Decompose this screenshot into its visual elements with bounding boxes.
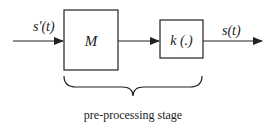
block-m-label: M — [84, 33, 99, 49]
block-k: k (.) — [160, 20, 203, 58]
group-label: pre-processing stage — [84, 108, 182, 122]
grouping-brace — [64, 76, 202, 96]
input-signal-label: s'(t) — [33, 19, 55, 35]
output-signal-label: s(t) — [222, 23, 241, 39]
block-k-label: k (.) — [170, 33, 193, 49]
block-m: M — [64, 10, 118, 70]
block-diagram: s'(t) M k (.) s(t) pre-processing stage — [0, 0, 275, 127]
